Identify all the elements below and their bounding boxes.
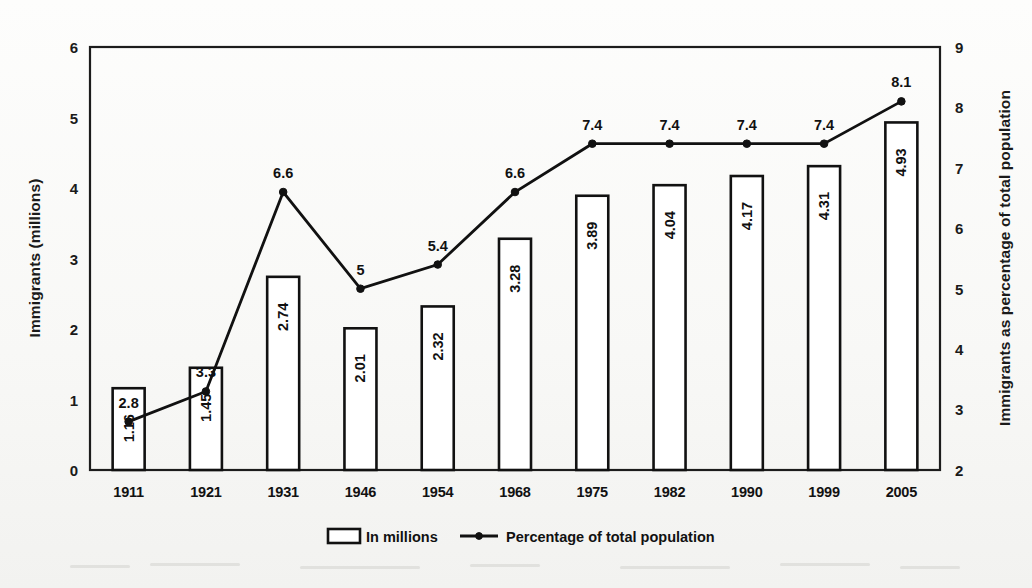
line-marker-1931 bbox=[279, 188, 287, 196]
line-marker-1968 bbox=[511, 188, 519, 196]
scan-noise bbox=[70, 563, 960, 569]
x-axis-category-labels: 1911192119311946195419681975198219901999… bbox=[113, 484, 917, 500]
left-tick-3: 3 bbox=[70, 251, 78, 268]
combo-bar-line-chart: Immigrants (millions) Immigrants as perc… bbox=[0, 0, 1032, 588]
line-marker-1990 bbox=[743, 140, 751, 148]
right-tick-6: 6 bbox=[955, 220, 963, 237]
line-value-1931: 6.6 bbox=[273, 165, 293, 181]
line-marker-1946 bbox=[357, 285, 365, 293]
x-label-1921: 1921 bbox=[190, 484, 222, 500]
right-tick-7: 7 bbox=[955, 160, 963, 177]
rect-outline-icon bbox=[328, 529, 360, 543]
right-tick-8: 8 bbox=[955, 99, 963, 116]
bar-1946 bbox=[344, 328, 376, 470]
bar-1954 bbox=[422, 306, 454, 470]
left-tick-2: 2 bbox=[70, 321, 78, 338]
bar-value-1954: 2.32 bbox=[430, 332, 446, 360]
line-value-2005: 8.1 bbox=[891, 74, 911, 90]
bar-value-1921: 1.45 bbox=[198, 394, 214, 422]
line-value-1990: 7.4 bbox=[737, 117, 757, 133]
left-axis-title: Immigrants (millions) bbox=[26, 179, 43, 338]
x-label-1968: 1968 bbox=[499, 484, 531, 500]
chart-container: Immigrants (millions) Immigrants as perc… bbox=[0, 0, 1032, 588]
bar-value-1990: 4.17 bbox=[739, 202, 755, 230]
line-dot-icon bbox=[460, 533, 498, 540]
bar-value-1999: 4.31 bbox=[816, 192, 832, 220]
left-tick-5: 5 bbox=[70, 110, 78, 127]
left-tick-0: 0 bbox=[70, 462, 78, 479]
line-marker-2005 bbox=[898, 98, 906, 106]
line-value-1954: 5.4 bbox=[428, 238, 448, 254]
x-label-1946: 1946 bbox=[345, 484, 377, 500]
bar-value-1975: 3.89 bbox=[584, 222, 600, 250]
x-label-1931: 1931 bbox=[267, 484, 299, 500]
line-marker-1911 bbox=[125, 418, 133, 426]
x-label-1975: 1975 bbox=[577, 484, 609, 500]
legend-label-bars: In millions bbox=[366, 529, 438, 545]
bar-value-2005: 4.93 bbox=[893, 148, 909, 176]
right-tick-3: 3 bbox=[955, 401, 963, 418]
right-axis-title: Immigrants as percentage of total popula… bbox=[996, 90, 1013, 426]
x-label-1911: 1911 bbox=[113, 484, 144, 500]
chart-legend: In millions Percentage of total populati… bbox=[328, 529, 715, 545]
x-label-1999: 1999 bbox=[808, 484, 840, 500]
line-value-1982: 7.4 bbox=[659, 117, 679, 133]
line-marker-1975 bbox=[588, 140, 596, 148]
left-axis-ticks: 6 5 4 3 2 1 0 bbox=[70, 39, 79, 479]
line-marker-1999 bbox=[820, 140, 828, 148]
line-value-1975: 7.4 bbox=[582, 117, 602, 133]
x-label-2005: 2005 bbox=[886, 484, 918, 500]
bar-value-1982: 4.04 bbox=[662, 211, 678, 239]
right-tick-5: 5 bbox=[955, 281, 963, 298]
line-value-1946: 5 bbox=[356, 262, 364, 278]
line-marker-1921 bbox=[202, 388, 210, 396]
line-marker-1982 bbox=[666, 140, 674, 148]
left-tick-6: 6 bbox=[70, 39, 78, 56]
x-label-1954: 1954 bbox=[422, 484, 454, 500]
line-marker-1954 bbox=[434, 261, 442, 269]
line-value-1999: 7.4 bbox=[814, 117, 834, 133]
left-tick-1: 1 bbox=[70, 392, 78, 409]
right-axis-ticks: 9 8 7 6 5 4 3 2 bbox=[955, 39, 964, 479]
legend-label-line: Percentage of total population bbox=[506, 529, 715, 545]
bar-value-1968: 3.28 bbox=[507, 265, 523, 293]
line-value-1911: 2.8 bbox=[119, 395, 139, 411]
left-tick-4: 4 bbox=[70, 180, 79, 197]
bar-value-1946: 2.01 bbox=[352, 354, 368, 382]
x-label-1990: 1990 bbox=[731, 484, 763, 500]
x-label-1982: 1982 bbox=[654, 484, 686, 500]
right-tick-4: 4 bbox=[955, 341, 964, 358]
line-value-1921: 3.3 bbox=[196, 364, 216, 380]
right-tick-9: 9 bbox=[955, 39, 963, 56]
right-tick-2: 2 bbox=[955, 462, 963, 479]
line-value-1968: 6.6 bbox=[505, 165, 525, 181]
bar-value-1931: 2.74 bbox=[275, 303, 291, 331]
